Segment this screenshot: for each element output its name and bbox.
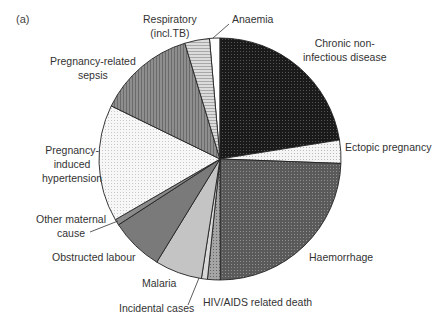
panel-label: (a) bbox=[16, 13, 29, 25]
label-line: Pregnancy- bbox=[42, 143, 102, 157]
label-chronic: Chronic non- infectious disease bbox=[303, 36, 386, 64]
label-line: Chronic non- bbox=[303, 36, 386, 50]
leader-anaemia bbox=[213, 24, 229, 38]
label-line: sepsis bbox=[50, 68, 136, 82]
label-ectopic: Ectopic pregnancy bbox=[345, 140, 431, 154]
label-line: cause bbox=[36, 226, 106, 240]
label-hypertension: Pregnancy- induced hypertension bbox=[42, 143, 102, 185]
label-sepsis: Pregnancy-related sepsis bbox=[50, 54, 136, 82]
label-hiv: HIV/AIDS related death bbox=[203, 295, 312, 309]
label-anaemia: Anaemia bbox=[232, 12, 273, 26]
label-line: Pregnancy-related bbox=[50, 54, 136, 68]
label-line: (incl.TB) bbox=[143, 26, 197, 40]
label-line: hypertension bbox=[42, 171, 102, 185]
label-line: induced bbox=[42, 157, 102, 171]
label-incidental: Incidental cases bbox=[119, 301, 194, 315]
label-respiratory: Respiratory (incl.TB) bbox=[143, 12, 197, 40]
label-obstructed: Obstructed labour bbox=[52, 250, 135, 264]
label-malaria: Malaria bbox=[142, 276, 176, 290]
label-line: Other maternal bbox=[36, 212, 106, 226]
label-other: Other maternal cause bbox=[36, 212, 106, 240]
label-haemorrhage: Haemorrhage bbox=[309, 250, 373, 264]
label-line: infectious disease bbox=[303, 50, 386, 64]
label-line: Respiratory bbox=[143, 12, 197, 26]
